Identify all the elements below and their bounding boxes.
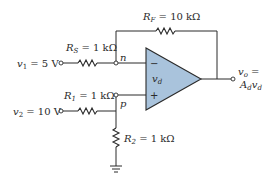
noninverting-input-sign: + — [150, 90, 158, 101]
v2-label: v2 = 10 V — [13, 106, 62, 119]
output-branch — [201, 77, 235, 81]
inverting-input-sign: − — [150, 58, 158, 69]
rs-label: RS = 1 kΩ — [65, 42, 117, 55]
resistor-rf — [156, 28, 175, 34]
input-branch-v2 — [59, 93, 146, 166]
node-n[interactable] — [114, 61, 118, 65]
rf-label: RF = 10 kΩ — [142, 11, 200, 24]
node-n-label: n — [120, 52, 126, 63]
op-amp: − + vd — [146, 48, 201, 110]
v1-label: v1 = 5 V — [17, 58, 59, 71]
output-label-line1: vo = — [238, 66, 259, 79]
r1-label: R1 = 1 kΩ — [63, 90, 115, 103]
output-label-line2: Advd — [239, 79, 262, 92]
circuit-diagram: RF = 10 kΩ v1 = 5 V RS = 1 kΩ n R1 = 1 k… — [0, 0, 273, 183]
r2-label: R2 = 1 kΩ — [123, 133, 175, 146]
resistor-rs — [78, 60, 97, 66]
ground-icon — [110, 166, 122, 172]
resistor-r2 — [113, 128, 119, 147]
output-terminal[interactable] — [231, 77, 235, 81]
node-p-label: p — [120, 98, 127, 109]
v1-terminal[interactable] — [59, 61, 63, 65]
resistor-r1 — [78, 108, 97, 114]
input-branch-v1 — [59, 60, 146, 66]
